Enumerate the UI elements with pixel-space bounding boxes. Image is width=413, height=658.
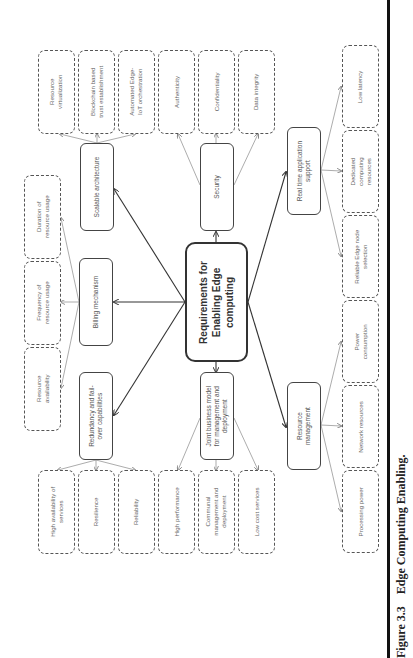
leaf-label: Low cost services	[253, 488, 261, 537]
leaf-dedicated-computing: Dedicated computing resources	[342, 130, 379, 213]
leaf-label: Processing power	[357, 487, 365, 536]
category-label: Redundancy and fail- over capabilities	[88, 385, 104, 446]
leaf-processing-power: Processing power	[342, 470, 379, 553]
category-label: Resource management	[296, 407, 312, 445]
leaf-label: Low latency	[357, 70, 365, 103]
leaf-blockchain-trust: Blockchain based trust establishment	[78, 50, 115, 134]
leaf-resilience: Resilience	[78, 470, 115, 554]
leaf-authenticity: Authenticity	[158, 50, 195, 134]
leaf-label: Resource availability	[35, 375, 51, 404]
leaf-label: Blockchain based trust establishment	[89, 66, 105, 118]
center-node: Requirements for Enabling Edge computing	[185, 242, 248, 362]
category-label: Scalable architecture	[93, 157, 101, 218]
leaf-label: Communal management and deployment	[205, 488, 228, 536]
center-label: Requirements for Enabling Edge computing	[197, 261, 236, 344]
leaf-high-availability: High availability of services	[38, 470, 75, 554]
leaf-power-consumption: Power consumption	[342, 300, 379, 383]
category-redundancy: Redundancy and fail- over capabilities	[79, 372, 113, 460]
leaf-label: Resilience	[93, 498, 101, 527]
category-label: Real time application support	[296, 141, 312, 201]
category-security: Security	[200, 143, 234, 231]
leaf-label: Frequency of resource usage	[35, 282, 51, 325]
leaf-reliable-node-selection: Reliable Edge node selection	[342, 215, 379, 298]
category-label: Joint business model for management and …	[205, 386, 229, 447]
leaf-label: Data integrity	[253, 74, 261, 110]
leaf-label: Duration of resource usage	[35, 196, 51, 239]
leaf-duration-of-usage: Duration of resource usage	[24, 175, 61, 259]
leaf-label: Authenticity	[173, 76, 181, 108]
leaf-automated-orchestration: Automated Edge- IoT orchestration	[118, 50, 155, 134]
leaf-label: Automated Edge- IoT orchestration	[129, 68, 145, 116]
leaf-high-performance: High performance	[158, 470, 195, 554]
leaf-data-integrity: Data integrity	[238, 50, 275, 134]
leaf-label: Confidentiality	[213, 73, 221, 112]
leaf-resource-virtualization: Resource virtualization	[38, 50, 75, 134]
leaf-low-cost-services: Low cost services	[238, 470, 275, 554]
category-label: Billing mechanism	[92, 276, 100, 328]
leaf-low-latency: Low latency	[342, 45, 379, 128]
leaf-network-resources: Network resources	[342, 385, 379, 468]
leaf-label: Reliability	[133, 499, 141, 525]
category-scalable-architecture: Scalable architecture	[80, 143, 114, 231]
leaf-label: High performance	[173, 487, 181, 536]
category-joint-business-model: Joint business model for management and …	[200, 372, 234, 460]
category-label: Security	[213, 175, 221, 198]
leaf-label: Resource virtualization	[49, 75, 65, 109]
caption-rule	[387, 0, 390, 658]
leaf-label: Dedicated computing resources	[349, 157, 372, 186]
category-resource-management: Resource management	[287, 382, 321, 470]
leaf-label: Power consumption	[353, 324, 369, 359]
leaf-communal-management: Communal management and deployment	[198, 470, 235, 554]
leaf-reliability: Reliability	[118, 470, 155, 554]
leaf-frequency-of-usage: Frequency of resource usage	[24, 261, 61, 345]
figure-caption: Figure 3.3Edge Computing Enabling.	[394, 455, 409, 658]
figure-number: Figure 3.3	[394, 606, 408, 658]
category-billing-mechanism: Billing mechanism	[79, 258, 113, 346]
leaf-confidentiality: Confidentiality	[198, 50, 235, 134]
category-real-time-support: Real time application support	[287, 127, 321, 215]
leaf-label: High availability of services	[49, 487, 65, 537]
leaf-resource-availability: Resource availability	[24, 347, 61, 431]
leaf-label: Network resources	[357, 401, 365, 453]
leaf-label: Reliable Edge node selection	[353, 229, 369, 283]
figure-title: Edge Computing Enabling.	[394, 455, 408, 595]
